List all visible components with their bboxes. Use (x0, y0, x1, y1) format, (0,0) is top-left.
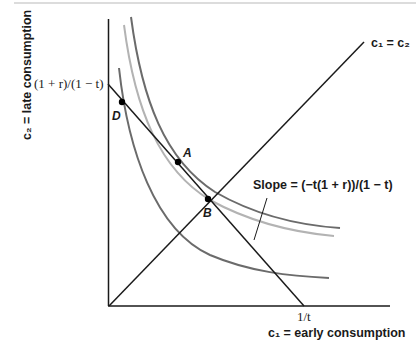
slope-leader-line (254, 198, 267, 240)
y-axis-label: c₂ = late consumption (20, 10, 34, 140)
inner-indifference-curve (119, 68, 329, 278)
consumption-diagram: D A B (1 + r)/(1 − t) 1/t c₁ = c₂ Slope … (0, 0, 416, 351)
outer-indifference-curve (131, 17, 340, 228)
equal-consumption-line (109, 42, 364, 306)
slope-label: Slope = (−t(1 + r))/(1 − t) (253, 178, 393, 192)
point-a-label: A (182, 146, 192, 160)
point-d-label: D (112, 109, 121, 123)
diagram-canvas: D A B (1 + r)/(1 − t) 1/t c₁ = c₂ Slope … (0, 0, 416, 351)
point-d (119, 99, 125, 105)
x-axis-label: c₁ = early consumption (268, 326, 406, 340)
diagonal-label: c₁ = c₂ (371, 36, 410, 50)
budget-line (108, 84, 304, 306)
x-intercept-label: 1/t (297, 309, 311, 324)
y-intercept-label: (1 + r)/(1 − t) (34, 76, 104, 91)
point-a (175, 159, 181, 165)
point-b-label: B (203, 206, 212, 220)
middle-indifference-curve (124, 25, 334, 236)
point-b (205, 196, 211, 202)
